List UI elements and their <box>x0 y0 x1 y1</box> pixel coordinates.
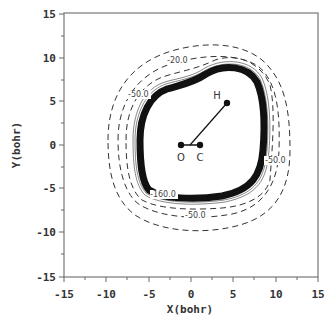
x-tick-label: 5 <box>230 288 237 301</box>
molecule: O C H <box>177 90 230 163</box>
x-tick-label: 10 <box>269 288 282 301</box>
atom-o <box>178 142 184 148</box>
y-tick-label: 5 <box>49 95 56 108</box>
atom-label-o: O <box>177 152 185 163</box>
y-tick-label: 10 <box>43 52 56 65</box>
contour-label: -50.0 <box>185 211 206 220</box>
contour-label: -20.0 <box>167 56 188 65</box>
atom-c <box>197 142 203 148</box>
contour-label: -160.0 <box>150 190 176 199</box>
x-tick-label: 0 <box>188 288 195 301</box>
x-axis <box>64 277 318 282</box>
y-axis <box>59 14 64 277</box>
y-tick-label: 15 <box>43 8 56 21</box>
y-tick-label: -15 <box>36 271 56 284</box>
y-tick-label: -5 <box>43 182 56 195</box>
x-tick-label: 15 <box>311 288 324 301</box>
atom-label-h: H <box>213 90 221 101</box>
contour-plot: 15 10 5 0 -5 -10 -15 Y(bohr) -15 -10 -5 … <box>0 0 331 326</box>
x-tick-label: -15 <box>54 288 74 301</box>
atom-h <box>224 100 230 106</box>
y-tick-label: 0 <box>49 139 56 152</box>
y-tick-label: -10 <box>36 226 56 239</box>
x-axis-title: X(bohr) <box>167 303 213 316</box>
bond-c-h <box>190 103 227 145</box>
x-tick-label: -5 <box>142 288 155 301</box>
contour-label: -50.0 <box>128 90 149 99</box>
y-axis-title: Y(bohr) <box>10 122 23 168</box>
x-tick-label: -10 <box>96 288 116 301</box>
contour-label: -50.0 <box>265 156 286 165</box>
atom-label-c: C <box>197 152 204 163</box>
